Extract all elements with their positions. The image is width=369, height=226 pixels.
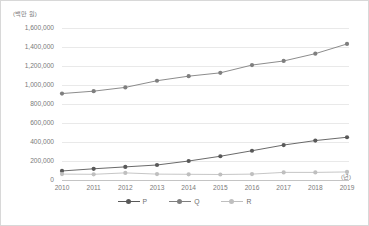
gridlines — [62, 28, 349, 180]
data-point — [123, 165, 127, 169]
series-p — [60, 135, 349, 173]
series-line — [62, 172, 347, 175]
data-point — [282, 170, 286, 174]
series-r — [60, 170, 349, 177]
legend-label: P — [143, 198, 148, 205]
data-point — [92, 167, 96, 171]
data-point — [345, 170, 349, 174]
series-line — [62, 44, 347, 94]
data-point — [282, 59, 286, 63]
data-point — [313, 52, 317, 56]
legend-dot — [177, 199, 182, 204]
data-point — [187, 172, 191, 176]
legend-item-q[interactable]: Q — [169, 198, 199, 205]
data-point — [282, 143, 286, 147]
data-point — [60, 172, 64, 176]
legend-label: Q — [194, 198, 199, 205]
data-point — [187, 74, 191, 78]
data-point — [218, 172, 222, 176]
legend-swatch-icon — [221, 198, 243, 205]
data-point — [345, 135, 349, 139]
legend-item-p[interactable]: P — [118, 198, 148, 205]
chart-plot-area — [0, 0, 369, 226]
data-point — [155, 172, 159, 176]
series-layer — [60, 42, 349, 177]
data-point — [60, 91, 64, 95]
data-point — [218, 71, 222, 75]
data-point — [123, 85, 127, 89]
data-point — [218, 154, 222, 158]
series-q — [60, 42, 349, 96]
data-point — [155, 79, 159, 83]
data-point — [155, 163, 159, 167]
legend-dot — [229, 199, 234, 204]
data-point — [250, 149, 254, 153]
data-point — [250, 172, 254, 176]
legend-swatch-icon — [118, 198, 140, 205]
data-point — [313, 138, 317, 142]
legend-dot — [126, 199, 131, 204]
line-chart: (백만 원) (년) 0200,000400,000600,000800,000… — [0, 0, 369, 226]
data-point — [92, 172, 96, 176]
data-point — [250, 63, 254, 67]
data-point — [92, 89, 96, 93]
legend-label: R — [246, 198, 251, 205]
legend-swatch-icon — [169, 198, 191, 205]
chart-legend: PQR — [0, 198, 369, 205]
data-point — [313, 170, 317, 174]
data-point — [123, 171, 127, 175]
data-point — [187, 159, 191, 163]
legend-item-r[interactable]: R — [221, 198, 251, 205]
data-point — [345, 42, 349, 46]
